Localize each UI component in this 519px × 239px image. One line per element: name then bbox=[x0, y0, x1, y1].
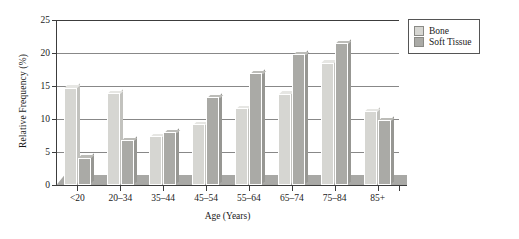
chart-figure: Relative Frequency (%) 0510152025 Age (Y… bbox=[0, 0, 519, 239]
y-tick-label-15: 15 bbox=[41, 81, 51, 91]
x-tick-label-6: 75–84 bbox=[323, 193, 347, 203]
x-tick-label-1: 20–34 bbox=[108, 193, 132, 203]
bar-soft-tissue bbox=[335, 43, 348, 185]
x-axis-line bbox=[56, 185, 407, 186]
y-axis-title: Relative Frequency (%) bbox=[18, 16, 28, 186]
bar-face bbox=[192, 124, 205, 185]
x-tick-4 bbox=[249, 185, 250, 191]
bar-bone bbox=[64, 88, 77, 185]
x-tick-label-2: 35–44 bbox=[151, 193, 175, 203]
bar-soft-tissue bbox=[292, 54, 305, 185]
bar-face bbox=[235, 108, 248, 185]
bar-bone bbox=[278, 94, 291, 185]
bar-group bbox=[99, 20, 142, 185]
bar-side bbox=[219, 93, 222, 183]
bar-bone bbox=[321, 63, 334, 185]
bar-face bbox=[107, 93, 120, 185]
y-tick-label-10: 10 bbox=[41, 114, 51, 124]
bar-bone bbox=[192, 124, 205, 185]
x-tick-label-5: 65–74 bbox=[280, 193, 304, 203]
bar-face bbox=[378, 120, 391, 185]
x-tick-6 bbox=[335, 185, 336, 191]
bar-side bbox=[176, 128, 179, 183]
bar-face bbox=[78, 158, 91, 185]
legend-label-soft-tissue: Soft Tissue bbox=[429, 37, 472, 47]
legend-item-bone: Bone bbox=[414, 26, 472, 36]
bar-group bbox=[313, 20, 356, 185]
x-axis-title: Age (Years) bbox=[56, 211, 399, 221]
bar-soft-tissue bbox=[121, 140, 134, 185]
x-tick-1 bbox=[120, 185, 121, 191]
bar-soft-tissue bbox=[206, 97, 219, 185]
bar-side bbox=[91, 154, 94, 184]
bar-face bbox=[292, 54, 305, 185]
bar-group bbox=[228, 20, 271, 185]
bar-face bbox=[149, 136, 162, 185]
y-tick-label-20: 20 bbox=[41, 48, 51, 58]
y-tick-label-0: 0 bbox=[45, 180, 50, 190]
bar-soft-tissue bbox=[78, 158, 91, 185]
bar-bone bbox=[149, 136, 162, 185]
bar-bone bbox=[364, 111, 377, 185]
y-tick-label-5: 5 bbox=[45, 147, 50, 157]
x-tick-7 bbox=[378, 185, 379, 191]
bar-face bbox=[121, 140, 134, 185]
bar-bone bbox=[235, 108, 248, 185]
legend-swatch-soft-tissue bbox=[414, 37, 424, 47]
bar-side bbox=[391, 116, 394, 183]
legend-label-bone: Bone bbox=[429, 26, 449, 36]
bars-layer bbox=[56, 20, 399, 185]
bar-face bbox=[64, 88, 77, 185]
legend-swatch-bone bbox=[414, 26, 424, 36]
y-tick-label-25: 25 bbox=[41, 15, 51, 25]
bar-soft-tissue bbox=[249, 73, 262, 185]
x-tick-2 bbox=[163, 185, 164, 191]
bar-side bbox=[262, 70, 265, 184]
bar-side bbox=[348, 39, 351, 183]
bar-face bbox=[364, 111, 377, 185]
legend-item-soft-tissue: Soft Tissue bbox=[414, 37, 472, 47]
x-tick-label-3: 45–54 bbox=[194, 193, 218, 203]
bar-side bbox=[305, 50, 308, 183]
x-tick-label-7: 85+ bbox=[370, 193, 385, 203]
bar-group bbox=[56, 20, 99, 185]
bar-face bbox=[163, 132, 176, 185]
x-tick-label-4: 55–64 bbox=[237, 193, 261, 203]
bar-face bbox=[278, 94, 291, 185]
x-tick-3 bbox=[206, 185, 207, 191]
bar-group bbox=[356, 20, 399, 185]
bar-group bbox=[185, 20, 228, 185]
bar-soft-tissue bbox=[163, 132, 176, 185]
x-tick-end bbox=[399, 185, 400, 191]
bar-face bbox=[321, 63, 334, 185]
bar-face bbox=[249, 73, 262, 185]
x-tick-label-0: <20 bbox=[70, 193, 85, 203]
bar-group bbox=[142, 20, 185, 185]
bar-side bbox=[134, 136, 137, 183]
bar-face bbox=[335, 43, 348, 185]
bar-soft-tissue bbox=[378, 120, 391, 185]
bar-group bbox=[270, 20, 313, 185]
bar-face bbox=[206, 97, 219, 185]
x-tick-5 bbox=[292, 185, 293, 191]
chart-legend: Bone Soft Tissue bbox=[408, 19, 480, 54]
x-tick-0 bbox=[77, 185, 78, 191]
bar-bone bbox=[107, 93, 120, 185]
